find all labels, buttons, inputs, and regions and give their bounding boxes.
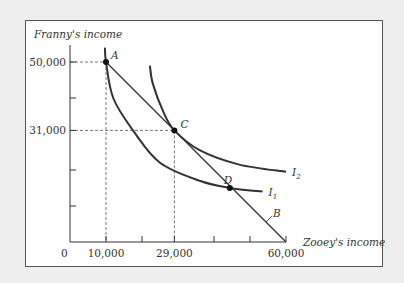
curve-I2 bbox=[150, 66, 286, 172]
label-B: B bbox=[272, 207, 281, 219]
origin-label: 0 bbox=[61, 247, 68, 259]
point-label-D: D bbox=[223, 174, 233, 186]
point-label-A: A bbox=[110, 49, 119, 61]
label-I2: I2 bbox=[291, 166, 301, 181]
x-tick-label: 10,000 bbox=[88, 247, 125, 259]
label-I1: I1 bbox=[268, 186, 278, 201]
label-I1-subscript: 1 bbox=[273, 193, 277, 201]
x-tick-label: 29,000 bbox=[156, 247, 193, 259]
point-C bbox=[171, 127, 177, 133]
y-tick-label: 50,000 bbox=[29, 56, 66, 68]
x-axis-label: Zooey's income bbox=[302, 236, 385, 248]
point-A bbox=[103, 59, 109, 65]
x-tick-label: 60,000 bbox=[268, 247, 305, 259]
budget-label-leader bbox=[266, 216, 272, 222]
point-label-C: C bbox=[180, 118, 188, 130]
y-axis-label: Franny's income bbox=[33, 28, 122, 40]
chart: 50,00031,00010,00029,00060,000 I1I2B ACD… bbox=[0, 0, 404, 283]
y-tick-label: 31,000 bbox=[29, 124, 66, 136]
label-I2-subscript: 2 bbox=[295, 173, 301, 181]
budget-line-B bbox=[106, 62, 286, 242]
